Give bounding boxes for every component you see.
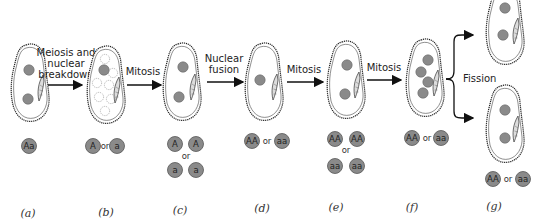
arrow-mitosis-2: Mitosis [287, 64, 323, 82]
genotype-e: AA AA or aa aa [328, 132, 365, 174]
svg-text:AA: AA [487, 174, 499, 184]
svg-text:aa: aa [330, 161, 340, 171]
stage-label-f: (f) [406, 201, 419, 214]
step-label-fusion-line2: fusion [209, 64, 239, 75]
svg-text:AA: AA [351, 134, 363, 144]
svg-text:Aa: Aa [23, 141, 34, 151]
svg-text:AA: AA [406, 133, 418, 143]
stage-label-b: (b) [98, 206, 114, 219]
cell-c [163, 43, 201, 120]
svg-text:or: or [101, 141, 110, 151]
svg-text:AA: AA [329, 134, 341, 144]
genotype-c: A A or a a [168, 137, 204, 178]
step-label-meiosis-line2: nuclear [47, 58, 85, 69]
stage-label-g: (g) [486, 200, 502, 213]
cell-g-top [486, 0, 524, 64]
svg-text:AA: AA [246, 136, 258, 146]
step-label-mitosis-3: Mitosis [367, 62, 402, 73]
svg-text:A: A [90, 141, 96, 151]
svg-text:A: A [193, 139, 199, 149]
svg-text:or: or [342, 145, 351, 155]
svg-text:a: a [114, 141, 119, 151]
stage-label-d: (d) [254, 202, 270, 215]
svg-text:a: a [172, 165, 177, 175]
svg-text:aa: aa [277, 136, 287, 146]
stage-label-c: (c) [173, 204, 188, 217]
genotype-g: AA or aa [486, 172, 531, 187]
genotype-b: A or a [86, 139, 125, 154]
svg-text:aa: aa [352, 161, 362, 171]
svg-text:or: or [182, 151, 191, 161]
step-label-fission: Fission [463, 73, 496, 84]
svg-text:or: or [504, 174, 513, 184]
svg-text:or: or [263, 136, 272, 146]
svg-text:aa: aa [518, 174, 528, 184]
genotype-f: AA or aa [405, 131, 449, 146]
autogamy-diagram: Meiosis and nuclear breakdown Mitosis Nu… [0, 0, 540, 223]
step-label-fusion-line1: Nuclear [205, 53, 244, 64]
cell-g-bottom [486, 85, 524, 162]
svg-text:aa: aa [436, 133, 446, 143]
step-label-mitosis-1: Mitosis [126, 66, 161, 77]
svg-text:A: A [172, 139, 178, 149]
step-label-meiosis-line3: breakdown [38, 69, 93, 80]
svg-text:or: or [423, 133, 432, 143]
stage-label-e: (e) [328, 201, 343, 214]
step-label-mitosis-2: Mitosis [287, 64, 322, 75]
cell-f [406, 39, 444, 116]
arrow-mitosis-3: Mitosis [367, 62, 402, 80]
stage-label-a: (a) [20, 207, 35, 220]
cell-e [327, 41, 365, 118]
arrow-mitosis-1: Mitosis [126, 66, 161, 85]
genotype-d: AA or aa [245, 134, 290, 149]
step-label-meiosis-line1: Meiosis and [37, 47, 96, 58]
svg-text:a: a [193, 165, 198, 175]
genotype-a: Aa [22, 139, 37, 154]
arrow-nuclear-fusion: Nuclear fusion [205, 53, 244, 82]
cell-d [245, 43, 283, 120]
